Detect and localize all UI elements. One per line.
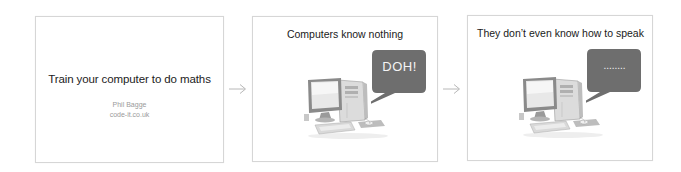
slide-thumbnail-3[interactable]: They don’t even know how to speak ......… (467, 15, 653, 161)
speech-bubble-text: DOH! (373, 59, 426, 74)
slide-title: Computers know nothing (253, 28, 437, 40)
speech-bubble-text: ........ (588, 60, 641, 71)
slide-title: They don’t even know how to speak (477, 27, 644, 39)
slide-author: Phil Bagge (36, 101, 223, 108)
slide-title: Train your computer to do maths (36, 73, 223, 85)
slide-thumbnail-2[interactable]: Computers know nothing DOH! (252, 16, 438, 162)
slide-website: code-it.co.uk (36, 111, 223, 118)
slide-thumbnail-1[interactable]: Train your computer to do maths Phil Bag… (35, 16, 224, 163)
arrow-right-icon (443, 83, 461, 95)
arrow-right-icon (229, 83, 247, 95)
desktop-computer-icon (303, 78, 393, 140)
desktop-computer-icon (518, 77, 608, 139)
